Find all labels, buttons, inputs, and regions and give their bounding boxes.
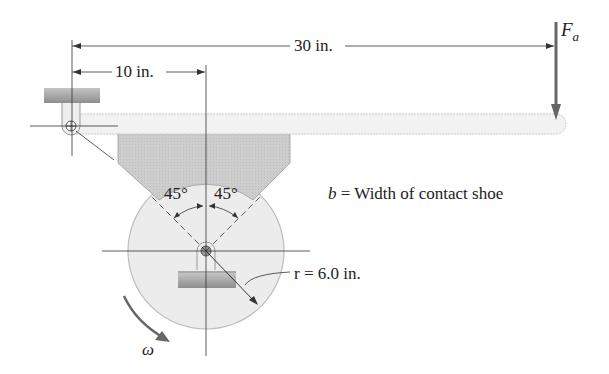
dim-shoe-offset-label: 10 in.	[115, 63, 154, 80]
force-subscript: a	[573, 29, 580, 44]
pivot-leader	[76, 131, 114, 160]
omega-label: ω	[142, 341, 154, 358]
force-symbol: F	[561, 19, 573, 40]
lever-arm	[72, 114, 566, 134]
legend-text: = Width of contact shoe	[337, 184, 504, 203]
force-label: Fa	[561, 20, 579, 43]
radius-label: r = 6.0 in.	[294, 265, 361, 282]
angle-left-label: 45°	[164, 185, 188, 202]
legend-width: b = Width of contact shoe	[328, 185, 503, 202]
ground-support-bottom	[178, 273, 236, 288]
angle-right-label: 45°	[214, 185, 238, 202]
legend-symbol: b	[328, 184, 337, 203]
dim-overall-label: 30 in.	[294, 37, 333, 54]
brake-diagram	[0, 0, 609, 374]
